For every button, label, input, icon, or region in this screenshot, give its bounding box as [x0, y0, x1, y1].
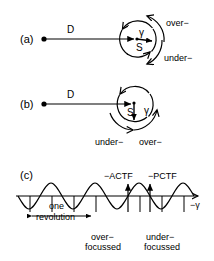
panel-b-center-label: S: [127, 107, 134, 118]
chart-underfocus-label-line2: focussed: [144, 242, 180, 252]
panel-b-arc-top: [120, 86, 149, 94]
panel-b-gamma-label: γ: [144, 105, 149, 116]
panel-a-ray-label: D: [67, 24, 74, 35]
chart-underfocus-label-line1: under−: [146, 232, 174, 242]
panel-a-gamma-label: γ: [139, 27, 144, 38]
panel-a-radius-arrow: [137, 39, 152, 41]
panel-a-source-dot: [41, 36, 46, 41]
chart-overfocus-label-line1: over−: [91, 232, 114, 242]
panel-b-tag: (b): [20, 98, 33, 110]
panel-a-under-label: under−: [164, 53, 192, 63]
panel-b-source-dot: [41, 101, 46, 106]
chart-revolution-label-line1: one: [49, 201, 64, 211]
panel-a-arc-right: [152, 29, 157, 52]
panel-a-arc-left: [120, 30, 128, 55]
panel-c-tag: (c): [20, 169, 33, 181]
panel-b: (b) D S γ under− over−: [20, 86, 162, 147]
panel-b-over-label: over−: [139, 137, 162, 147]
panel-b-arc-right: [149, 94, 154, 117]
chart-overfocus-label-line2: focussed: [85, 242, 121, 252]
chart-pctf-label: −PCTF: [148, 171, 177, 181]
panel-c: (c) −ACTF −PCTF one: [16, 169, 200, 252]
panel-a-tag: (a): [20, 33, 33, 45]
figure-svg: (a) D γ S: [0, 0, 214, 261]
chart-x-axis-label: −γ: [190, 200, 200, 210]
figure-container: (a) D γ S: [0, 0, 214, 261]
panel-a-arc-top: [123, 21, 153, 29]
panel-b-arc-left: [117, 95, 125, 119]
panel-a-over-label: over−: [166, 18, 189, 28]
chart-revolution-label-line2: revolution: [36, 212, 75, 222]
panel-b-ray-label: D: [67, 89, 74, 100]
panel-a: (a) D γ S: [20, 16, 192, 64]
chart-actf-label: −ACTF: [104, 171, 133, 181]
panel-b-under-label: under−: [95, 137, 123, 147]
panel-a-center-label: S: [136, 42, 143, 53]
panel-b-center-dot: [132, 101, 135, 104]
